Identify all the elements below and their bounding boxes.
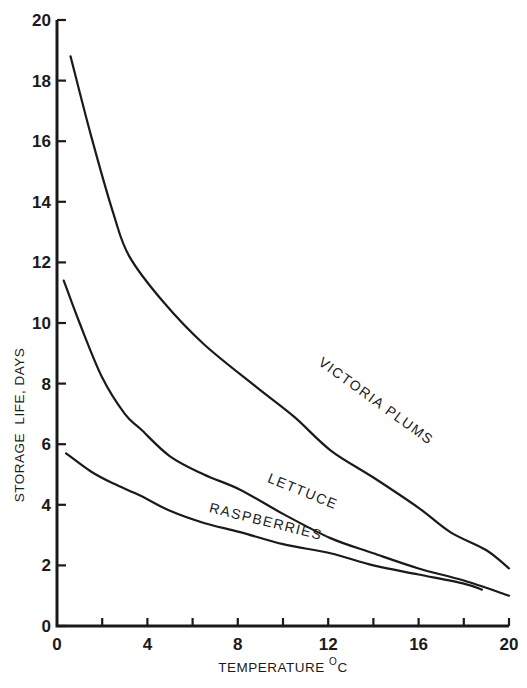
- data-series: [64, 56, 509, 595]
- axis-ticks: [57, 20, 509, 626]
- x-tick-label: 8: [233, 635, 242, 654]
- x-tick-label: 20: [500, 635, 519, 654]
- y-axis-title: STORAGE LIFE, DAYS: [12, 348, 27, 503]
- series-label-raspberries: RASPBERRIES: [208, 499, 325, 543]
- y-tick-label: 4: [42, 496, 52, 515]
- y-tick-label: 12: [32, 253, 51, 272]
- y-tick-label: 16: [32, 132, 51, 151]
- axis-lines: [57, 20, 509, 626]
- y-tick-label: 18: [32, 72, 51, 91]
- series-label-victoria-plums: VICTORIA PLUMS: [316, 354, 437, 448]
- chart-canvas: 02468101214161820048121620 VICTORIA PLUM…: [0, 0, 527, 688]
- y-tick-label: 2: [42, 556, 51, 575]
- y-tick-label: 0: [42, 617, 51, 636]
- y-tick-label: 6: [42, 435, 51, 454]
- x-tick-label: 0: [52, 635, 61, 654]
- axes: [57, 20, 509, 626]
- x-axis-title: TEMPERATURE OC: [218, 656, 347, 675]
- x-tick-label: 16: [409, 635, 428, 654]
- curve-lettuce: [64, 281, 509, 596]
- x-tick-label: 4: [143, 635, 153, 654]
- x-tick-label: 12: [319, 635, 338, 654]
- y-tick-label: 8: [42, 375, 51, 394]
- y-tick-label: 14: [32, 193, 51, 212]
- y-tick-label: 10: [32, 314, 51, 333]
- y-tick-label: 20: [32, 11, 51, 30]
- series-label-lettuce: LETTUCE: [266, 470, 341, 513]
- series-labels: VICTORIA PLUMSLETTUCERASPBERRIES: [208, 354, 437, 543]
- axis-tick-labels: 02468101214161820048121620: [32, 11, 518, 654]
